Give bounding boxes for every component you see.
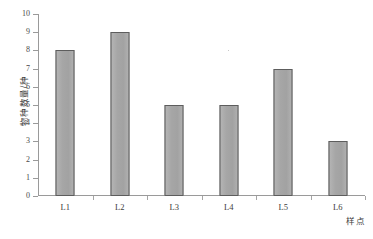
bar[interactable] — [110, 32, 129, 196]
x-tick — [365, 196, 366, 200]
bar[interactable] — [328, 141, 347, 196]
y-tick-label: 10 — [22, 8, 30, 19]
x-tick — [202, 196, 203, 200]
bar[interactable] — [165, 105, 184, 196]
x-tick — [311, 196, 312, 200]
bar-chart-figure: 物种数量/种 109876543210 L1L2L3L4L5L6 样点 — [0, 0, 373, 239]
x-tick-label: L3 — [170, 202, 179, 212]
x-tick-label: L1 — [61, 202, 70, 212]
y-tick-label: 1 — [26, 172, 30, 183]
x-tick-label: L2 — [115, 202, 124, 212]
x-tick — [93, 196, 94, 200]
bar[interactable] — [219, 105, 238, 196]
bar-group[interactable]: L4 — [202, 14, 257, 196]
y-tick-label: 0 — [26, 190, 30, 201]
y-tick-label: 9 — [26, 26, 30, 37]
bar[interactable] — [274, 69, 293, 196]
x-axis-title: 样点 — [346, 214, 365, 226]
x-tick — [147, 196, 148, 200]
bar[interactable] — [56, 50, 75, 196]
y-tick-label: 7 — [26, 63, 30, 74]
plot-area: 109876543210 L1L2L3L4L5L6 — [38, 14, 365, 196]
x-tick-label: L5 — [279, 202, 288, 212]
y-tick-label: 2 — [26, 154, 30, 165]
bar-group[interactable]: L2 — [93, 14, 148, 196]
x-tick-label: L6 — [333, 202, 342, 212]
x-tick-label: L4 — [224, 202, 233, 212]
y-tick-label: 5 — [26, 99, 30, 110]
bar-group[interactable]: L5 — [256, 14, 311, 196]
y-tick-label: 3 — [26, 135, 30, 146]
x-tick — [256, 196, 257, 200]
bar-group[interactable]: L3 — [147, 14, 202, 196]
bar-series: L1L2L3L4L5L6 — [38, 14, 365, 196]
y-tick-label: 8 — [26, 44, 30, 55]
y-tick: 0 — [33, 196, 38, 197]
bar-group[interactable]: L1 — [38, 14, 93, 196]
y-tick-label: 4 — [26, 117, 30, 128]
bar-group[interactable]: L6 — [311, 14, 366, 196]
y-tick-label: 6 — [26, 81, 30, 92]
scan-artifact — [228, 50, 229, 51]
